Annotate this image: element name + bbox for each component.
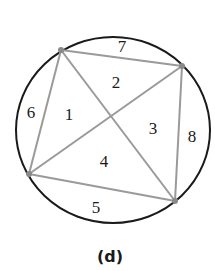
figure-caption: (d) (97, 247, 123, 266)
vertex-a (58, 47, 64, 53)
edge-right (175, 66, 182, 201)
region-label-8: 8 (188, 127, 197, 146)
vertex-b (179, 63, 185, 69)
vertex-c (172, 198, 178, 204)
region-label-1: 1 (65, 105, 74, 124)
region-label-2: 2 (112, 73, 121, 92)
region-label-7: 7 (118, 37, 127, 56)
edge-bottom (29, 174, 175, 201)
vertices (26, 47, 185, 204)
region-label-5: 5 (92, 198, 101, 217)
region-label-6: 6 (27, 103, 36, 122)
region-label-3: 3 (149, 119, 158, 138)
vertex-d (26, 171, 32, 177)
inscribed-quadrilateral-diagram: 1 2 3 4 5 6 7 8 (d) (0, 0, 215, 271)
region-label-4: 4 (100, 152, 109, 171)
quadrilateral-edges (29, 50, 182, 201)
